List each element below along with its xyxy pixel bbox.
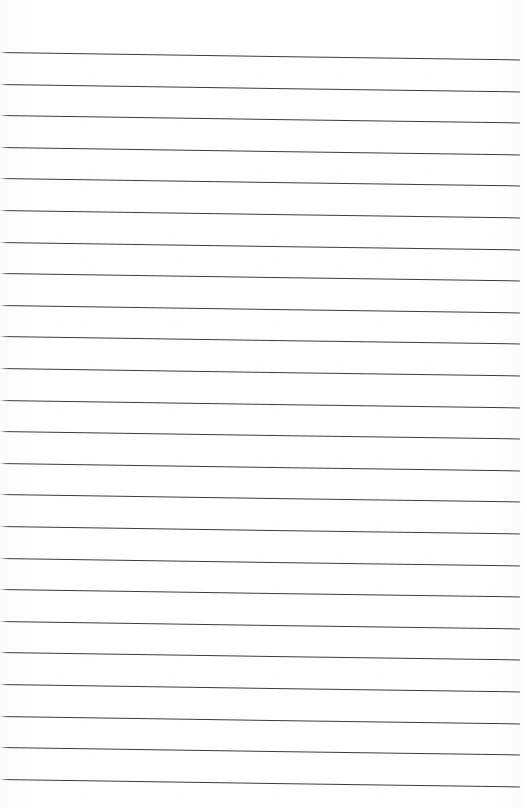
ruled-line bbox=[0, 115, 520, 123]
ruled-line bbox=[0, 242, 520, 250]
ruled-line bbox=[0, 558, 520, 566]
ruled-line bbox=[0, 716, 520, 724]
ruled-line bbox=[0, 747, 520, 755]
ruled-line bbox=[0, 305, 520, 313]
ruled-line bbox=[0, 336, 520, 344]
ruled-line bbox=[0, 431, 520, 439]
ruled-line bbox=[0, 210, 520, 218]
ruled-lines-layer bbox=[0, 0, 527, 808]
ruled-line bbox=[0, 463, 520, 471]
ruled-line bbox=[0, 52, 520, 60]
ruled-line bbox=[0, 178, 520, 186]
ruled-line bbox=[0, 652, 520, 660]
ruled-line bbox=[0, 526, 520, 534]
ruled-line bbox=[0, 779, 520, 787]
ruled-line bbox=[0, 621, 520, 629]
ruled-line bbox=[0, 494, 520, 502]
scanned-page bbox=[0, 0, 527, 808]
ruled-line bbox=[0, 273, 520, 281]
ruled-line bbox=[0, 84, 520, 92]
ruled-line bbox=[0, 400, 520, 408]
ruled-line bbox=[0, 368, 520, 376]
ruled-line bbox=[0, 684, 520, 692]
ruled-line bbox=[0, 147, 520, 155]
ruled-line bbox=[0, 589, 520, 597]
